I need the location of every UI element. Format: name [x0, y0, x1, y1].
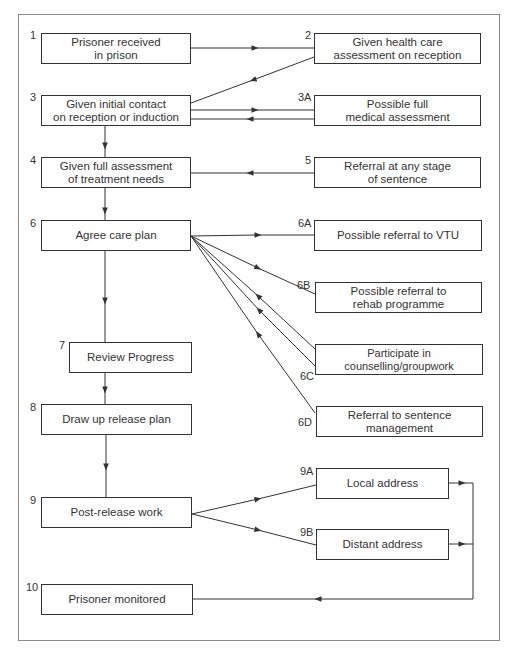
- node-review-progress: Review Progress: [69, 342, 192, 373]
- node-number-6B: 6B: [297, 279, 310, 291]
- node-number-9: 9: [30, 494, 36, 506]
- flowchart-canvas: 1 Prisoner received in prison 3 Given in…: [0, 0, 513, 653]
- node-number-2: 2: [305, 29, 311, 41]
- node-sentence-management: Referral to sentence management: [316, 406, 483, 437]
- node-local-address: Local address: [316, 468, 449, 499]
- node-number-4: 4: [30, 154, 36, 166]
- node-label: Agree care plan: [75, 229, 156, 242]
- node-number-1: 1: [30, 29, 36, 41]
- node-label: Review Progress: [87, 351, 174, 364]
- node-full-assessment: Given full assessment of treatment needs: [41, 157, 191, 188]
- node-agree-care-plan: Agree care plan: [41, 220, 191, 251]
- node-prisoner-monitored: Prisoner monitored: [41, 584, 193, 615]
- node-counselling-groupwork: Participate in counselling/groupwork: [315, 344, 483, 375]
- node-label: Prisoner monitored: [68, 593, 165, 606]
- node-label: Possible referral to VTU: [337, 229, 459, 242]
- node-label: Referral to sentence management: [320, 409, 479, 435]
- node-label: Referral at any stage of sentence: [344, 160, 451, 186]
- node-health-care-assessment: Given health care assessment on receptio…: [314, 33, 481, 64]
- node-label: Distant address: [343, 538, 423, 551]
- node-label: Possible referral to rehab programme: [351, 285, 447, 311]
- node-label: Participate in counselling/groupwork: [319, 347, 479, 373]
- node-label: Prisoner received in prison: [71, 36, 160, 62]
- node-initial-contact: Given initial contact on reception or in…: [41, 95, 191, 126]
- node-release-plan: Draw up release plan: [41, 404, 192, 435]
- edge-6-to-6A: [191, 235, 258, 236]
- node-distant-address: Distant address: [316, 529, 449, 560]
- node-referral-rehab: Possible referral to rehab programme: [315, 282, 482, 313]
- node-prisoner-received: Prisoner received in prison: [41, 33, 191, 64]
- edge-6C-to-6-a: [258, 296, 315, 349]
- node-number-9B: 9B: [300, 526, 313, 538]
- edge-2-to-3: [253, 57, 314, 80]
- node-number-8: 8: [30, 401, 36, 413]
- node-number-7: 7: [59, 339, 65, 351]
- node-number-6A: 6A: [298, 217, 311, 229]
- node-label: Draw up release plan: [62, 413, 171, 426]
- node-number-10: 10: [26, 581, 38, 593]
- edge-6C-to-6-b: [259, 310, 315, 366]
- node-label: Possible full medical assessment: [345, 98, 449, 124]
- node-label: Given initial contact on reception or in…: [53, 98, 179, 124]
- node-label: Local address: [347, 477, 419, 490]
- edge-9-to-9A: [192, 499, 258, 514]
- node-number-6C: 6C: [300, 370, 314, 382]
- node-label: Given health care assessment on receptio…: [334, 36, 462, 62]
- node-referral-any-stage: Referral at any stage of sentence: [314, 157, 481, 188]
- node-number-5: 5: [305, 154, 311, 166]
- node-label: Given full assessment of treatment needs: [60, 160, 173, 186]
- node-full-medical-assessment: Possible full medical assessment: [314, 95, 481, 126]
- node-number-3: 3: [30, 91, 36, 103]
- node-label: Post-release work: [70, 506, 162, 519]
- node-post-release-work: Post-release work: [41, 497, 192, 528]
- node-number-6D: 6D: [298, 416, 312, 428]
- node-number-9A: 9A: [300, 465, 313, 477]
- node-referral-vtu: Possible referral to VTU: [314, 220, 482, 251]
- edge-9-to-9B: [192, 514, 258, 530]
- node-number-6: 6: [30, 217, 36, 229]
- edge-6-to-6B: [191, 236, 258, 268]
- node-number-3A: 3A: [298, 91, 311, 103]
